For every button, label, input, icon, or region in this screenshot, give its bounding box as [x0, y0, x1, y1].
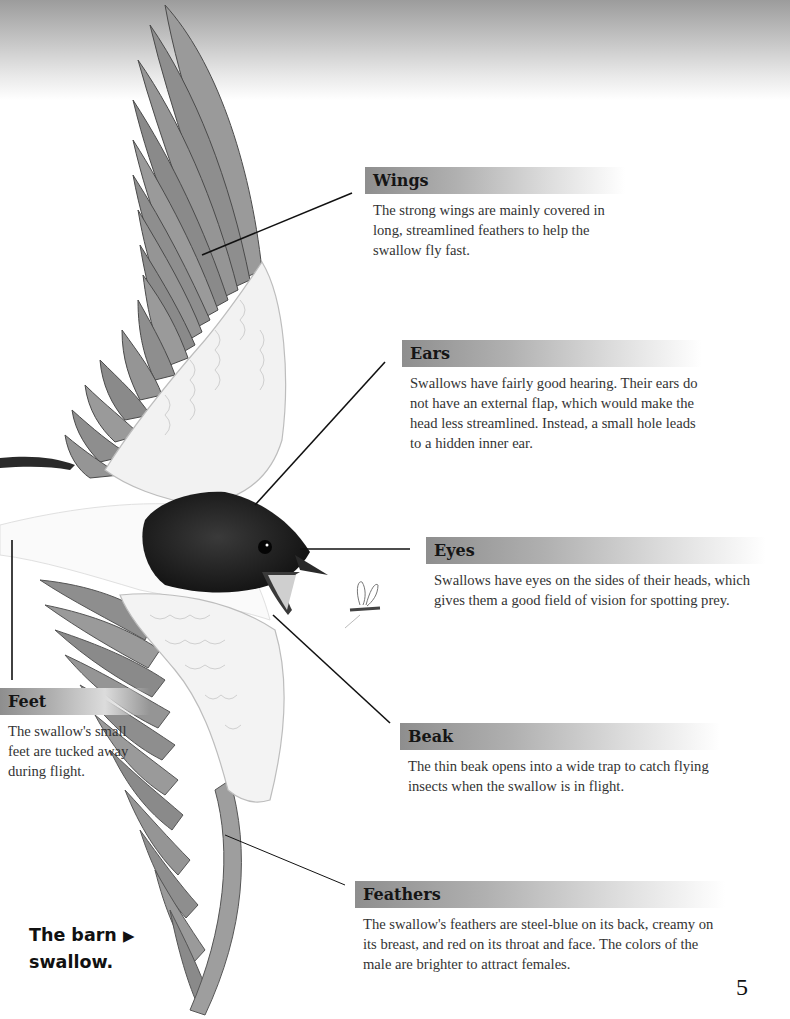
- leader-line-feathers: [225, 835, 345, 885]
- callout-text: Swallows have fairly good hearing. Their…: [402, 373, 702, 453]
- figure-caption: The barn ▶ swallow.: [29, 922, 134, 975]
- callout-text: The swallow's feathers are steel-blue on…: [355, 914, 725, 974]
- callout-feathers: Feathers The swallow's feathers are stee…: [355, 881, 725, 974]
- barn-swallow-illustration: [0, 0, 790, 1019]
- leader-line-beak: [273, 615, 390, 723]
- callout-text: The swallow's small feet are tucked away…: [0, 721, 150, 781]
- caption-line-1: The barn: [29, 925, 117, 945]
- callout-title: Feet: [0, 688, 150, 715]
- callout-eyes: Eyes Swallows have eyes on the sides of …: [426, 537, 766, 610]
- callout-text: The thin beak opens into a wide trap to …: [400, 756, 720, 796]
- insect-prey: [345, 582, 380, 628]
- callout-beak: Beak The thin beak opens into a wide tra…: [400, 723, 720, 796]
- callout-ears: Ears Swallows have fairly good hearing. …: [402, 340, 702, 453]
- callout-text: Swallows have eyes on the sides of their…: [426, 570, 766, 610]
- right-arrow-icon: ▶: [123, 927, 135, 945]
- callout-title: Feathers: [355, 881, 725, 908]
- callout-wings: Wings The strong wings are mainly covere…: [365, 167, 625, 260]
- caption-line-2: swallow.: [29, 952, 113, 972]
- callout-feet: Feet The swallow's small feet are tucked…: [0, 688, 150, 781]
- eye: [258, 540, 272, 554]
- page-number: 5: [736, 974, 748, 1001]
- callout-title: Ears: [402, 340, 702, 367]
- callout-title: Beak: [400, 723, 720, 750]
- callout-title: Wings: [365, 167, 625, 194]
- callout-text: The strong wings are mainly covered in l…: [365, 200, 625, 260]
- callout-title: Eyes: [426, 537, 766, 564]
- tail: [0, 457, 75, 470]
